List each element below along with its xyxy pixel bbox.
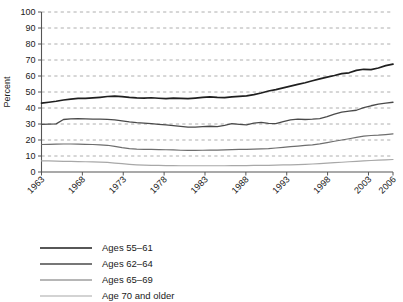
series-line-2 (42, 134, 394, 150)
x-tick-label-1983: 1983 (189, 174, 210, 195)
x-tick-label-1963: 1963 (25, 174, 46, 195)
x-tick-label-2006: 2006 (377, 174, 398, 195)
chart-legend: Ages 55–61Ages 62–64Ages 65–69Age 70 and… (40, 242, 174, 301)
y-axis-label-group: Percent (2, 76, 12, 108)
data-series (42, 64, 394, 166)
x-axis-tick-labels: 1963196819731978198319881993199820032006 (25, 174, 398, 195)
y-tick-label-80: 80 (25, 39, 35, 49)
figure-container: Percent 1009080706050403020100 196319681… (0, 0, 403, 302)
gridlines (42, 12, 394, 156)
y-tick-label-50: 50 (25, 87, 35, 97)
x-tick-label-1998: 1998 (311, 174, 332, 195)
x-tick-label-1993: 1993 (270, 174, 291, 195)
legend-label-0: Ages 55–61 (102, 242, 153, 253)
y-tick-label-70: 70 (25, 55, 35, 65)
y-tick-label-30: 30 (25, 119, 35, 129)
y-axis-title: Percent (2, 76, 12, 108)
legend-label-2: Ages 65–69 (102, 274, 153, 285)
y-tick-label-20: 20 (25, 135, 35, 145)
line-chart: Percent 1009080706050403020100 196319681… (0, 0, 403, 302)
y-tick-label-90: 90 (25, 23, 35, 33)
x-tick-label-2003: 2003 (352, 174, 373, 195)
x-tick-label-1988: 1988 (230, 174, 251, 195)
x-tick-label-1968: 1968 (66, 174, 87, 195)
x-tick-label-1978: 1978 (148, 174, 169, 195)
y-tick-label-100: 100 (20, 7, 35, 17)
legend-label-3: Age 70 and older (102, 290, 174, 301)
series-line-0 (42, 64, 394, 103)
y-tick-label-40: 40 (25, 103, 35, 113)
legend-label-1: Ages 62–64 (102, 258, 153, 269)
y-tick-label-0: 0 (30, 167, 35, 177)
y-axis-tick-labels: 1009080706050403020100 (20, 7, 35, 177)
y-tick-label-10: 10 (25, 151, 35, 161)
series-line-1 (42, 102, 394, 127)
y-tick-label-60: 60 (25, 71, 35, 81)
axes (38, 12, 393, 176)
x-tick-label-1973: 1973 (107, 174, 128, 195)
series-line-3 (42, 160, 394, 166)
